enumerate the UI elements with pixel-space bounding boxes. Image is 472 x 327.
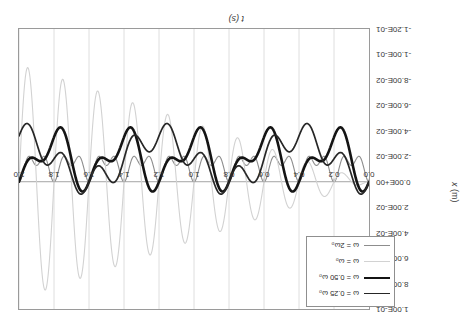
x-tick-label: 1.0: [183, 170, 205, 179]
chart-figure: x (m) -1.20E-01-1.00E-01-8.00E-02-6.00E-…: [0, 0, 472, 327]
x-axis-title: t (s): [229, 14, 245, 24]
legend-swatch-icon: [364, 246, 390, 247]
x-tick-label: 1.4: [113, 170, 135, 179]
x-tick-label: 0.4: [288, 170, 310, 179]
y-tick-label: 2.00E-02: [376, 203, 454, 212]
legend-item: ω = 2ω₀: [311, 238, 390, 254]
legend-item-label: ω = 0.25 ω₀: [319, 290, 359, 299]
y-tick-label: -1.20E-01: [376, 25, 454, 34]
x-tick-label: 1.2: [148, 170, 170, 179]
x-tick-label: 0.8: [218, 170, 240, 179]
y-tick-label: -4.00E-02: [376, 127, 454, 136]
x-tick-label: 0.2: [323, 170, 345, 179]
x-tick-label: 1.6: [78, 170, 100, 179]
y-tick-label: -6.00E-02: [376, 101, 454, 110]
rotated-figure-wrapper: x (m) -1.20E-01-1.00E-01-8.00E-02-6.00E-…: [0, 0, 472, 327]
x-tick-label: 1.8: [43, 170, 65, 179]
x-tick-label: 0.0: [358, 170, 380, 179]
chart-legend: ω = 0.25 ω₀ω = 0.50 ω₀ω = ω₀ω = 2ω₀: [306, 236, 395, 307]
legend-swatch-icon: [364, 277, 390, 279]
legend-swatch-icon: [364, 262, 390, 263]
y-tick-label: -2.00E-02: [376, 152, 454, 161]
legend-item: ω = ω₀: [311, 254, 390, 270]
legend-item-label: ω = 2ω₀: [331, 242, 359, 251]
y-tick-label: -8.00E-02: [376, 76, 454, 85]
legend-item-label: ω = ω₀: [336, 258, 359, 267]
y-tick-label: -1.00E-01: [376, 50, 454, 59]
legend-item: ω = 0.25 ω₀: [311, 286, 390, 302]
x-tick-label: 2.0: [8, 170, 30, 179]
legend-swatch-icon: [364, 294, 390, 295]
legend-item: ω = 0.50 ω₀: [311, 270, 390, 286]
x-tick-label: 0.6: [253, 170, 275, 179]
legend-item-label: ω = 0.50 ω₀: [319, 274, 359, 283]
y-tick-label: 0.00E+00: [376, 178, 454, 187]
